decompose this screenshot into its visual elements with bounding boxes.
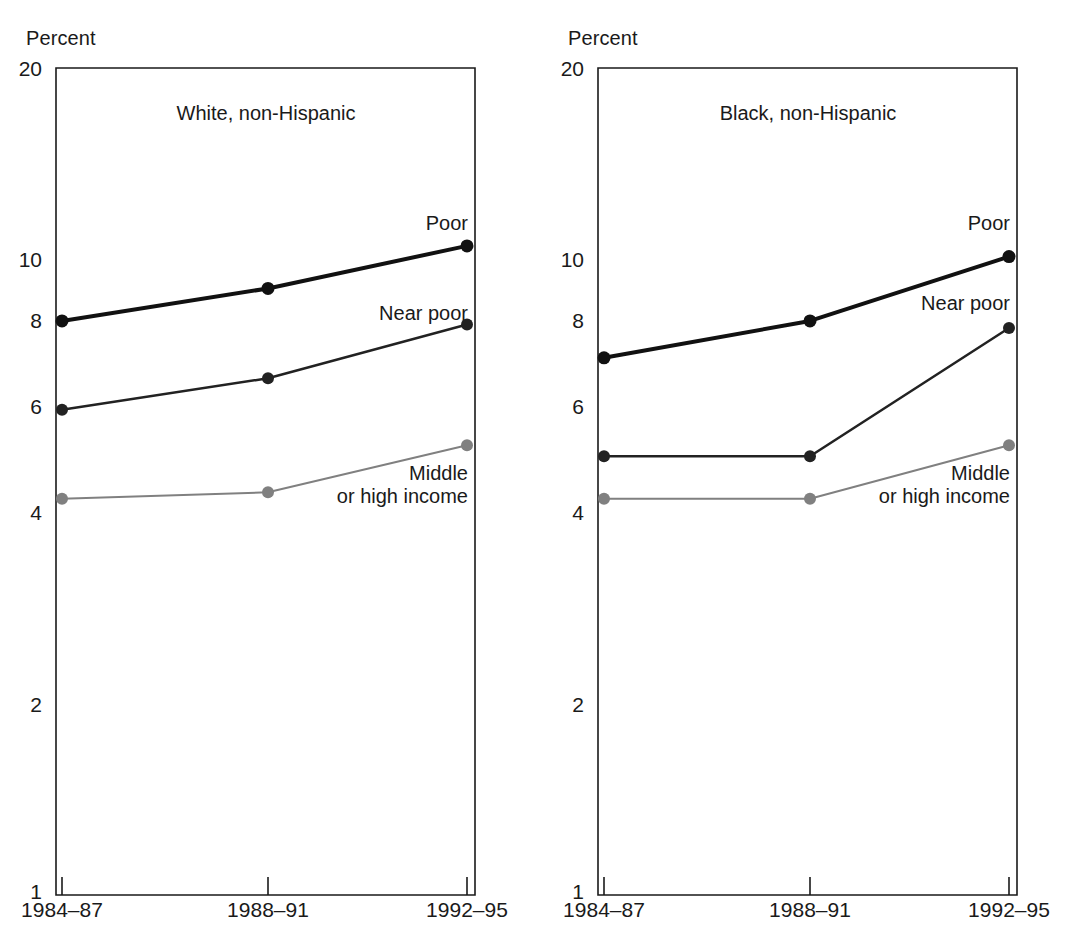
- data-point: [1003, 322, 1015, 334]
- panel-white-non-hispanic: Percent White, non-Hispanic 20 10 8 6 4 …: [0, 0, 530, 952]
- data-point: [461, 318, 473, 330]
- series-line: [62, 324, 467, 409]
- series-line: [604, 257, 1009, 358]
- data-point: [262, 486, 274, 498]
- data-point: [56, 404, 68, 416]
- series-poor: [598, 250, 1016, 364]
- data-point: [598, 493, 610, 505]
- data-point: [56, 493, 68, 505]
- series-middle-or-high-income: [56, 439, 473, 505]
- data-point: [262, 372, 274, 384]
- data-point: [598, 351, 611, 364]
- data-point: [804, 314, 817, 327]
- data-point: [804, 493, 816, 505]
- plot-frame: [56, 68, 475, 895]
- series-near-poor: [56, 318, 473, 415]
- data-point: [461, 439, 473, 451]
- data-point: [598, 450, 610, 462]
- plot-area-left: [0, 0, 530, 952]
- panel-black-non-hispanic: Percent Black, non-Hispanic 20 10 8 6 4 …: [542, 0, 1069, 952]
- plot-frame: [598, 68, 1017, 895]
- data-point: [1003, 250, 1016, 263]
- data-point: [56, 314, 69, 327]
- series-poor: [56, 239, 474, 327]
- data-point: [262, 282, 275, 295]
- series-near-poor: [598, 322, 1015, 462]
- data-point: [804, 450, 816, 462]
- series-middle-or-high-income: [598, 439, 1015, 505]
- data-point: [1003, 439, 1015, 451]
- plot-area-right: [542, 0, 1069, 952]
- figure-root: Percent White, non-Hispanic 20 10 8 6 4 …: [0, 0, 1069, 952]
- data-point: [461, 239, 474, 252]
